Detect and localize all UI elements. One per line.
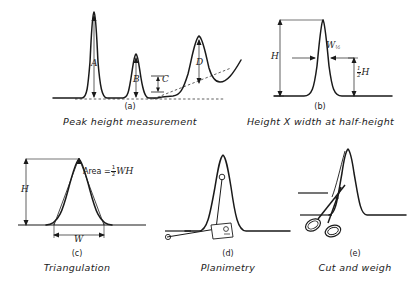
panel-c-drawing — [18, 145, 158, 245]
peak-label-b: B — [133, 74, 140, 84]
tangent-left-c — [54, 158, 79, 225]
panel-id-d: (d) — [213, 249, 243, 258]
planimeter-pole-arm — [167, 229, 216, 237]
panel-caption-e: Cut and weigh — [305, 262, 405, 273]
panel-id-a: (a) — [115, 102, 145, 111]
planimeter-tracer-point — [219, 174, 225, 180]
peak-label-d: D — [196, 57, 203, 67]
panel-e-drawing — [288, 145, 409, 245]
chromatogram-trace-e — [329, 149, 406, 215]
width-label-c: W — [74, 234, 83, 244]
height-label-b: H — [271, 51, 279, 61]
height-label-c: H — [21, 184, 29, 194]
scissors-pivot — [335, 196, 338, 199]
panel-b-drawing — [264, 4, 404, 112]
panel-id-e: (e) — [340, 249, 370, 258]
panel-caption-c: Triangulation — [27, 262, 127, 273]
figure-canvas: A B C D (a) Peak height measurement H W½… — [0, 0, 409, 281]
scissors-handle-left-outer — [303, 216, 322, 234]
planimeter-body — [211, 223, 233, 239]
arrowhead-w-right-b — [330, 56, 336, 61]
panel-caption-a: Peak height measurement — [55, 116, 205, 127]
half-height-label-b: 12H — [356, 66, 369, 79]
arrowhead-c-down — [156, 88, 160, 93]
panel-id-c: (c) — [62, 249, 92, 258]
panel-id-b: (b) — [305, 102, 335, 111]
panel-a-drawing — [25, 2, 275, 112]
panel-caption-d: Planimetry — [178, 262, 278, 273]
scissors-handle-right-outer — [324, 223, 343, 239]
arrowhead-b-down — [134, 92, 139, 98]
arrowhead-d-down — [197, 78, 202, 84]
width-half-height-label-b: W½ — [326, 40, 341, 50]
arrowhead-c-up — [156, 77, 160, 82]
peak-label-a: A — [91, 58, 98, 68]
arrowhead-w-left-b — [310, 56, 316, 61]
panel-caption-b: Height X width at half-height — [243, 116, 398, 127]
arrowhead-a-down — [92, 92, 97, 98]
chromatogram-trace-a — [53, 12, 241, 98]
planimeter-tracer-arm — [216, 179, 222, 229]
peak-label-c: C — [162, 74, 169, 84]
chromatogram-trace-d — [185, 155, 290, 231]
area-formula-c: Area =12WH — [83, 165, 133, 178]
panel-d-drawing — [165, 145, 305, 245]
